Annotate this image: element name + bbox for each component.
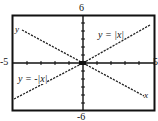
axis-letter-y: y bbox=[15, 25, 19, 34]
equation-label-abs: y = |x| bbox=[98, 30, 124, 40]
axis-letter-x: x bbox=[144, 91, 148, 100]
x-max-label: 5 bbox=[153, 57, 158, 67]
equation-label-neg-abs: y = -|x| bbox=[18, 74, 47, 84]
y-min-label: -6 bbox=[77, 112, 85, 121]
origin-marker bbox=[79, 61, 86, 65]
y-max-label: 6 bbox=[79, 3, 84, 13]
graph-window bbox=[0, 0, 158, 121]
x-min-label: -5 bbox=[0, 57, 8, 67]
